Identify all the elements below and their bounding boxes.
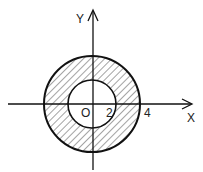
y-axis-label: Y [76, 12, 84, 26]
tick-label-2: 2 [106, 106, 113, 120]
x-axis-label: X [187, 111, 195, 125]
origin-label: O [81, 106, 90, 120]
shaded-ring [0, 0, 203, 172]
tick-label-4: 4 [144, 106, 151, 120]
annulus-diagram: Y X O 2 4 [0, 0, 203, 172]
